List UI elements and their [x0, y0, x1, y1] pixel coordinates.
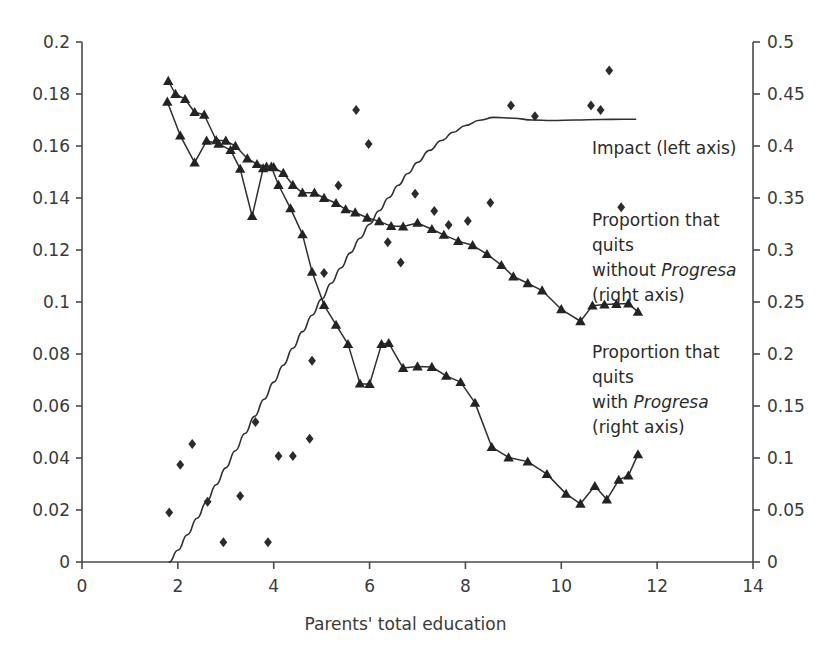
data-point-diamond — [464, 216, 472, 226]
without-progresa-line-1: Proportion that — [592, 208, 736, 233]
data-point-triangle — [623, 470, 633, 479]
data-point-triangle — [412, 361, 422, 370]
data-point-triangle — [355, 378, 365, 387]
left-axis-tick-label: 0.06 — [32, 396, 70, 416]
data-point-triangle — [523, 278, 533, 287]
data-point-triangle — [319, 300, 329, 309]
data-point-diamond — [507, 100, 515, 110]
x-axis-tick-label: 12 — [646, 576, 668, 596]
right-axis-tick-label: 0.3 — [767, 240, 794, 260]
data-point-diamond — [264, 537, 272, 547]
x-axis-tick-label: 14 — [742, 576, 764, 596]
data-point-diamond — [306, 434, 314, 444]
data-point-triangle — [384, 338, 394, 347]
left-axis-tick-label: 0.04 — [32, 448, 70, 468]
data-point-diamond — [308, 356, 316, 366]
right-axis-tick-label: 0.5 — [767, 32, 794, 52]
data-point-diamond — [188, 439, 196, 449]
data-point-diamond — [486, 198, 494, 208]
data-point-triangle — [343, 339, 353, 348]
data-point-triangle — [235, 164, 245, 173]
with-progresa-annotation: Proportion that quits with Progresa (rig… — [592, 340, 720, 440]
x-axis-tick-label: 2 — [172, 576, 183, 596]
left-axis-tick-label: 0.16 — [32, 136, 70, 156]
left-axis-tick-label: 0.18 — [32, 84, 70, 104]
left-axis-tick-label: 0.14 — [32, 188, 70, 208]
without-progresa-line-3-prefix: without — [592, 260, 661, 280]
data-point-triangle — [189, 157, 199, 166]
data-point-diamond — [219, 537, 227, 547]
data-point-triangle — [331, 198, 341, 207]
data-series — [162, 66, 643, 562]
data-point-triangle — [180, 94, 190, 103]
series-polyline — [167, 102, 638, 504]
series-3 — [165, 66, 625, 548]
data-point-triangle — [487, 442, 497, 451]
data-point-triangle — [614, 475, 624, 484]
data-point-triangle — [340, 204, 350, 213]
data-point-triangle — [455, 377, 465, 386]
right-axis-tick-label: 0.45 — [767, 84, 805, 104]
left-axis-tick-label: 0.1 — [43, 292, 70, 312]
data-point-triangle — [439, 230, 449, 239]
right-axis-tick-label: 0.05 — [767, 500, 805, 520]
data-point-diamond — [605, 66, 613, 76]
data-point-triangle — [453, 236, 463, 245]
left-axis-tick-label: 0.12 — [32, 240, 70, 260]
right-axis-tick-label: 0.15 — [767, 396, 805, 416]
without-progresa-line-3: without Progresa — [592, 258, 736, 283]
data-point-triangle — [633, 449, 643, 458]
right-axis-tick-label: 0.4 — [767, 136, 794, 156]
data-point-diamond — [320, 268, 328, 278]
data-point-diamond — [430, 206, 438, 216]
data-point-triangle — [319, 193, 329, 202]
left-axis-tick-label: 0.2 — [43, 32, 70, 52]
with-progresa-line-2: quits — [592, 365, 720, 390]
data-point-diamond — [365, 139, 373, 149]
without-progresa-annotation: Proportion that quits without Progresa (… — [592, 208, 736, 308]
right-axis-tick-label: 0.25 — [767, 292, 805, 312]
data-point-diamond — [587, 100, 595, 110]
x-axis-title: Parents' total education — [305, 614, 507, 634]
data-point-triangle — [201, 136, 211, 145]
right-axis-tick-label: 0.2 — [767, 344, 794, 364]
x-axis-tick-label: 8 — [460, 576, 471, 596]
chart-canvas: 00.020.040.060.080.10.120.140.160.180.20… — [0, 0, 836, 646]
data-point-triangle — [590, 481, 600, 490]
without-progresa-line-3-italic: Progresa — [661, 260, 736, 280]
data-point-triangle — [496, 260, 506, 269]
data-point-diamond — [165, 508, 173, 518]
data-point-triangle — [427, 224, 437, 233]
data-point-diamond — [335, 181, 343, 191]
data-point-triangle — [542, 469, 552, 478]
data-point-triangle — [441, 371, 451, 380]
x-axis-tick-label: 6 — [364, 576, 375, 596]
data-point-diamond — [275, 451, 283, 461]
without-progresa-line-2: quits — [592, 233, 736, 258]
x-axis-tick-label: 0 — [77, 576, 88, 596]
data-point-triangle — [278, 168, 288, 177]
series-polyline — [168, 81, 638, 321]
x-axis-tick-label: 10 — [550, 576, 572, 596]
x-axis-tick-label: 4 — [268, 576, 279, 596]
data-point-triangle — [297, 229, 307, 238]
left-axis-tick-label: 0.02 — [32, 500, 70, 520]
left-axis-tick-label: 0.08 — [32, 344, 70, 364]
series-1 — [163, 76, 643, 325]
data-point-triangle — [503, 452, 513, 461]
with-progresa-line-3-italic: Progresa — [633, 392, 708, 412]
right-axis-tick-label: 0.1 — [767, 448, 794, 468]
data-point-triangle — [537, 285, 547, 294]
data-point-triangle — [247, 211, 257, 220]
data-point-triangle — [412, 218, 422, 227]
without-progresa-line-4: (right axis) — [592, 283, 736, 308]
axis-labels: 00.020.040.060.080.10.120.140.160.180.20… — [32, 32, 805, 634]
data-point-diamond — [384, 237, 392, 247]
with-progresa-line-4: (right axis) — [592, 415, 720, 440]
data-point-triangle — [252, 159, 262, 168]
data-point-diamond — [397, 257, 405, 267]
data-point-diamond — [289, 451, 297, 461]
impact-annotation-label: Impact (left axis) — [592, 138, 736, 158]
data-point-triangle — [163, 76, 173, 85]
data-point-diamond — [352, 105, 360, 115]
